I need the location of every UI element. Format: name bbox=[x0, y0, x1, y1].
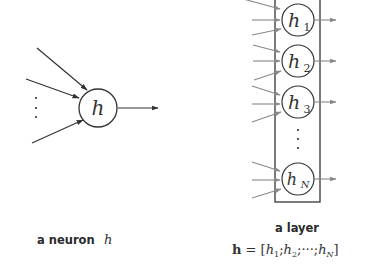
neuron-label: h bbox=[92, 96, 105, 120]
input-arrow-1 bbox=[37, 48, 87, 90]
layer-neuron-1: h 1 bbox=[236, 0, 336, 36]
input-arrow-2 bbox=[26, 79, 79, 98]
layer-neuron-2: h 2 bbox=[253, 45, 336, 80]
svg-text:h: h bbox=[288, 91, 300, 113]
single-neuron: h bbox=[26, 48, 158, 143]
layer-neuron-3: h 3 bbox=[252, 86, 336, 122]
layer-caption: a layer bbox=[275, 221, 319, 235]
svg-text:a layer: a layer bbox=[275, 221, 319, 235]
neuron-caption: a neuron h bbox=[37, 232, 112, 247]
svg-text:N: N bbox=[300, 179, 311, 190]
svg-text:h: h bbox=[104, 232, 112, 247]
input-arrow-3 bbox=[32, 120, 83, 143]
layer-formula: h = [h1;h2;···;hN] bbox=[232, 242, 339, 259]
svg-text:3: 3 bbox=[304, 103, 311, 116]
svg-text:2: 2 bbox=[304, 62, 311, 75]
layer-neuron-n: h N bbox=[252, 162, 336, 198]
svg-text:h = [h1;h2;···;hN]: h = [h1;h2;···;hN] bbox=[232, 242, 339, 259]
svg-text:h: h bbox=[288, 9, 300, 31]
svg-text:h: h bbox=[287, 170, 297, 189]
svg-text:1: 1 bbox=[304, 21, 311, 34]
neural-network-diagram: h h 1 h 2 bbox=[0, 0, 368, 273]
layer: h 1 h 2 h 3 bbox=[236, 0, 336, 202]
input-ellipsis bbox=[35, 97, 37, 118]
svg-text:a neuron: a neuron bbox=[37, 233, 95, 247]
layer-ellipsis bbox=[297, 129, 299, 149]
svg-text:h: h bbox=[288, 50, 300, 72]
